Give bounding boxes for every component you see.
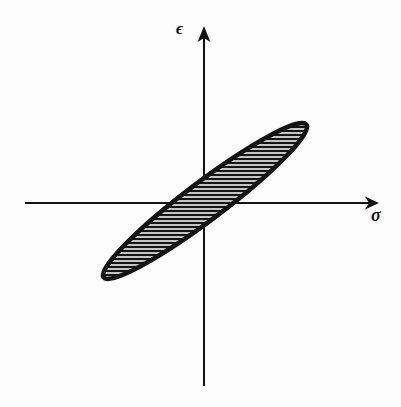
- axis-label-sigma: σ: [371, 206, 381, 224]
- axis-label-epsilon: ϵ: [176, 20, 183, 37]
- hysteresis-plot-svg: [0, 0, 401, 407]
- hysteresis-figure: ϵ σ: [0, 0, 401, 407]
